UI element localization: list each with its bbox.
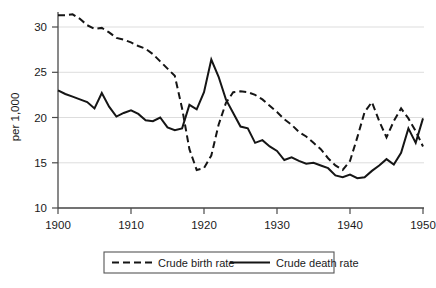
x-tick-label-1920: 1920 [191, 219, 217, 231]
y-tick-label-10: 10 [34, 202, 47, 214]
x-tick-label-1940: 1940 [337, 219, 363, 231]
x-tick-label-1910: 1910 [118, 219, 144, 231]
gridlines [58, 27, 424, 208]
line-chart: 30 25 20 15 10 1900 1910 1920 1930 1940 … [0, 0, 436, 288]
y-tick-labels: 30 25 20 15 10 [34, 21, 47, 214]
legend: Crude birth rate Crude death rate [104, 252, 359, 273]
legend-label-crude-death-rate: Crude death rate [276, 257, 359, 269]
x-tick-label-1950: 1950 [410, 219, 436, 231]
y-tickmarks [52, 27, 58, 208]
y-tick-label-15: 15 [34, 157, 47, 169]
legend-label-crude-birth-rate: Crude birth rate [158, 257, 234, 269]
x-tickmarks [58, 208, 423, 214]
y-tick-label-25: 25 [34, 66, 47, 78]
y-axis-title: per 1,000 [9, 93, 21, 142]
axes [58, 12, 424, 208]
x-tick-label-1900: 1900 [45, 219, 71, 231]
series-line-crude-birth-rate [58, 14, 423, 170]
series-line-crude-death-rate [58, 60, 423, 179]
y-tick-label-30: 30 [34, 21, 47, 33]
y-tick-label-20: 20 [34, 112, 47, 124]
x-tick-labels: 1900 1910 1920 1930 1940 1950 [45, 219, 436, 231]
x-tick-label-1930: 1930 [264, 219, 290, 231]
chart-container: 30 25 20 15 10 1900 1910 1920 1930 1940 … [0, 0, 436, 288]
